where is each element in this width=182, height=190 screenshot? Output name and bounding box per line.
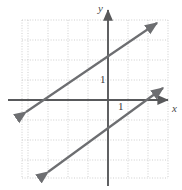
graph-figure: y x 1 1 [0,0,182,190]
x-axis-tick-label-1: 1 [118,101,124,112]
x-axis-label: x [172,103,177,114]
series-upper-line [26,23,157,112]
y-axis-label: y [98,3,103,14]
coordinate-plane [0,0,182,190]
y-axis-tick-label-1: 1 [100,74,106,85]
